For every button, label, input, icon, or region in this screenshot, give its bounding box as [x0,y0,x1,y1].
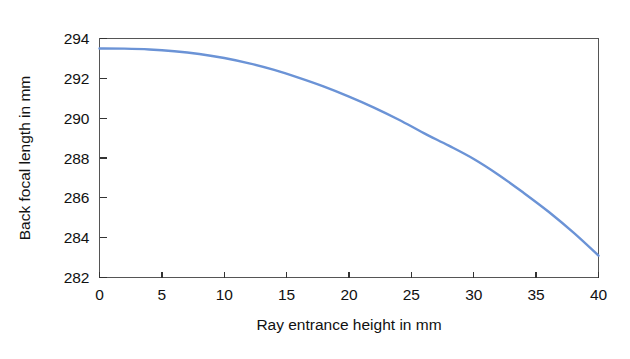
x-tick-label: 20 [340,286,358,303]
y-tick-label: 286 [64,189,90,206]
x-tick-label: 30 [465,286,483,303]
y-tick-label: 288 [64,150,90,167]
plot-svg: 0510152025303540 282284286288290292294 R… [0,0,630,359]
y-tick-label: 294 [64,30,90,47]
x-axis-ticks: 0510152025303540 [95,272,607,303]
x-tick-label: 40 [590,286,608,303]
x-tick-label: 15 [278,286,295,303]
chart-figure: 0510152025303540 282284286288290292294 R… [0,0,630,359]
axes-border [100,39,599,278]
data-series-line [100,48,599,255]
y-axis-title: Back focal length in mm [16,76,33,241]
plot-frame [100,39,599,278]
x-tick-label: 35 [528,286,545,303]
x-tick-label: 25 [403,286,420,303]
y-tick-label: 290 [64,110,90,127]
y-tick-label: 284 [64,229,90,246]
x-tick-label: 10 [216,286,234,303]
y-tick-label: 292 [64,70,90,87]
y-tick-label: 282 [64,269,90,286]
x-axis-title: Ray entrance height in mm [256,316,441,333]
x-tick-label: 5 [158,286,167,303]
x-tick-label: 0 [95,286,104,303]
